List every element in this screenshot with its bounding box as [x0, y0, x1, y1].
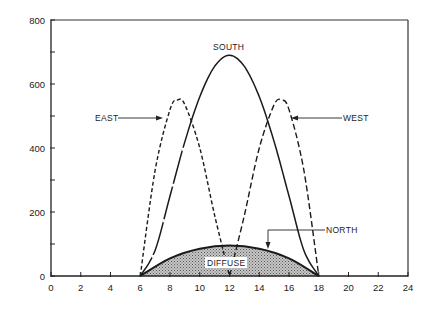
y-tick-label: 600 — [29, 79, 45, 90]
x-tick-label: 12 — [224, 282, 235, 293]
x-tick-label: 2 — [78, 282, 83, 293]
x-tick-label: 22 — [373, 282, 384, 293]
label-diffuse: DIFFUSE — [207, 258, 245, 268]
x-tick-label: 14 — [254, 282, 265, 293]
solar-irradiance-chart: 0200400600800 024681012141618202224 SOUT… — [0, 0, 430, 313]
x-tick-label: 20 — [343, 282, 354, 293]
label-east: EAST — [95, 113, 118, 123]
east-leader-arrow — [118, 116, 163, 121]
plot-frame — [51, 20, 408, 276]
x-tick-label: 8 — [167, 282, 172, 293]
y-tick-label: 800 — [29, 15, 45, 26]
x-tick-label: 0 — [48, 282, 53, 293]
label-south: SOUTH — [213, 42, 244, 52]
y-tick-label: 200 — [29, 207, 45, 218]
west-leader-arrow — [291, 116, 342, 121]
curves — [140, 55, 318, 276]
x-tick-label: 18 — [313, 282, 324, 293]
label-west: WEST — [343, 113, 369, 123]
south-curve — [140, 55, 318, 276]
x-tick-label: 24 — [403, 282, 414, 293]
x-tick-label: 4 — [108, 282, 113, 293]
x-tick-label: 6 — [138, 282, 143, 293]
x-tick-label: 10 — [194, 282, 205, 293]
x-tick-label: 16 — [284, 282, 295, 293]
y-tick-label: 0 — [40, 271, 45, 282]
north-leader-arrow — [266, 230, 326, 249]
label-north: NORTH — [326, 225, 358, 235]
y-tick-label: 400 — [29, 143, 45, 154]
